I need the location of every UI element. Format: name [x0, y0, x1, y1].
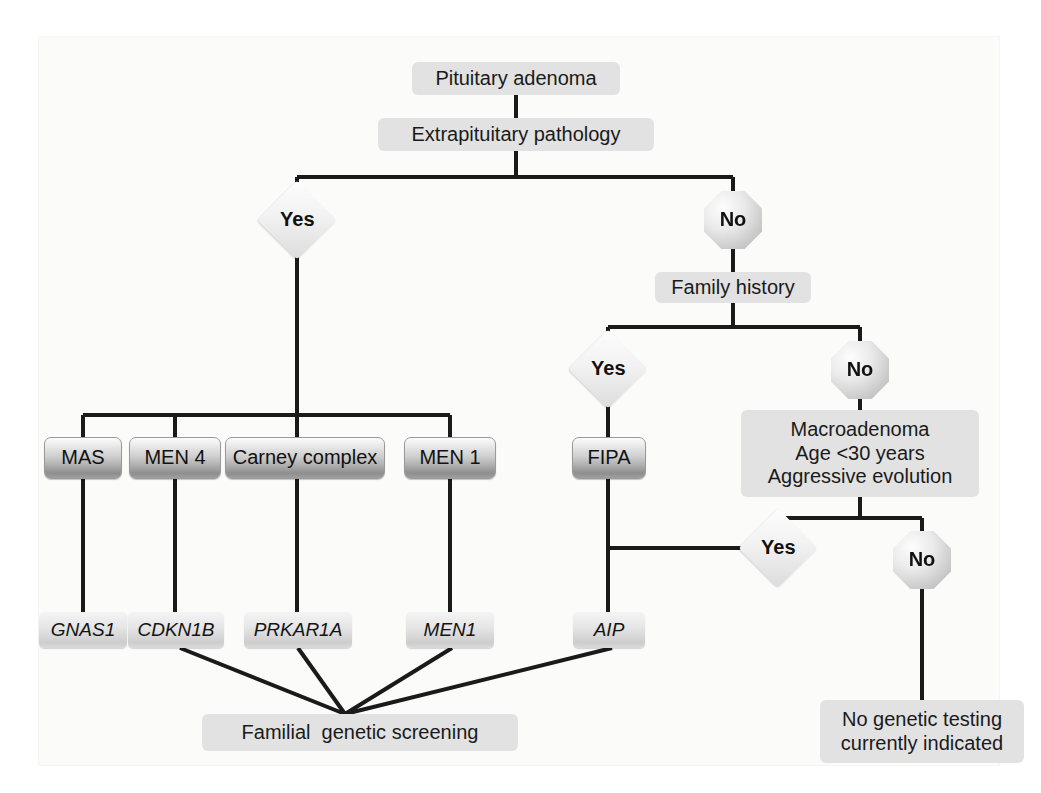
- node-familial-genetic-screening-label: Familial genetic screening: [242, 721, 479, 745]
- node-family-history[interactable]: Family history: [655, 272, 811, 303]
- node-gene-men1[interactable]: MEN1: [406, 612, 494, 648]
- node-familial-genetic-screening[interactable]: Familial genetic screening: [202, 714, 518, 751]
- node-extrapituitary-pathology-label: Extrapituitary pathology: [411, 123, 620, 147]
- node-carney-complex-label: Carney complex: [233, 446, 378, 470]
- node-gene-aip-label: AIP: [594, 619, 625, 641]
- node-gene-aip[interactable]: AIP: [573, 612, 645, 648]
- node-men4[interactable]: MEN 4: [129, 437, 221, 479]
- node-family-history-label: Family history: [671, 276, 794, 300]
- node-gene-prkar1a-label: PRKAR1A: [254, 619, 343, 641]
- decision-no-criteria-label: No: [909, 548, 936, 572]
- node-gene-cdkn1b-label: CDKN1B: [137, 619, 214, 641]
- diagram-canvas: Pituitary adenoma Extrapituitary patholo…: [0, 0, 1041, 793]
- node-gene-cdkn1b[interactable]: CDKN1B: [128, 612, 224, 648]
- decision-no-family-history[interactable]: No: [831, 341, 889, 399]
- node-pituitary-adenoma[interactable]: Pituitary adenoma: [412, 62, 620, 95]
- node-extrapituitary-pathology[interactable]: Extrapituitary pathology: [378, 118, 654, 151]
- node-men1-label: MEN 1: [419, 446, 480, 470]
- node-no-genetic-testing[interactable]: No genetic testing currently indicated: [820, 700, 1024, 763]
- decision-no-criteria[interactable]: No: [893, 531, 951, 589]
- node-mas[interactable]: MAS: [44, 437, 122, 479]
- node-gene-men1-label: MEN1: [424, 619, 477, 641]
- node-fipa[interactable]: FIPA: [572, 437, 646, 479]
- node-men1[interactable]: MEN 1: [404, 437, 496, 479]
- node-men4-label: MEN 4: [144, 446, 205, 470]
- decision-yes-extrapituitary-label: Yes: [280, 208, 314, 232]
- node-gene-gnas1-label: GNAS1: [51, 619, 115, 641]
- node-gene-prkar1a[interactable]: PRKAR1A: [244, 612, 352, 648]
- node-macroadenoma-criteria-label: Macroadenoma Age <30 years Aggressive ev…: [768, 418, 953, 489]
- node-no-genetic-testing-label: No genetic testing currently indicated: [841, 708, 1003, 755]
- decision-yes-criteria-label: Yes: [761, 536, 795, 560]
- decision-yes-family-history-label: Yes: [591, 357, 625, 381]
- decision-no-family-history-label: No: [847, 358, 874, 382]
- node-fipa-label: FIPA: [588, 446, 631, 470]
- node-mas-label: MAS: [61, 446, 104, 470]
- node-gene-gnas1[interactable]: GNAS1: [39, 612, 127, 648]
- decision-no-extrapituitary[interactable]: No: [704, 191, 762, 249]
- node-macroadenoma-criteria[interactable]: Macroadenoma Age <30 years Aggressive ev…: [741, 410, 979, 497]
- node-carney-complex[interactable]: Carney complex: [225, 437, 385, 479]
- node-pituitary-adenoma-label: Pituitary adenoma: [435, 67, 596, 91]
- decision-no-extrapituitary-label: No: [720, 208, 747, 232]
